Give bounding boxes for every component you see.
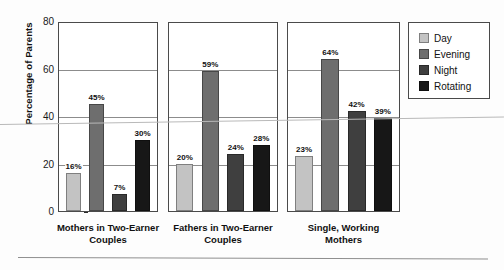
category-label: Single, WorkingMothers	[269, 222, 418, 246]
y-axis-tick-mark	[84, 212, 88, 213]
category-label-line1: Single, Working	[269, 222, 418, 234]
bar[interactable]: 16%	[66, 173, 82, 211]
bar-slot: 28%	[249, 23, 275, 211]
bar-chart: Percentage of Parents 806040200 16%45%7%…	[0, 0, 504, 270]
bar-value-label: 59%	[201, 60, 219, 70]
bar[interactable]: 45%	[89, 104, 105, 211]
bar-group: 16%45%7%30%	[59, 23, 157, 211]
y-axis-tick-label: 0	[32, 207, 54, 217]
bar-slot: 20%	[172, 23, 198, 211]
bar-value-label: 16%	[64, 162, 82, 172]
legend-label: Night	[434, 65, 457, 76]
bar[interactable]: 30%	[135, 140, 151, 211]
bar-value-label: 42%	[348, 100, 366, 110]
bar[interactable]: 28%	[253, 145, 270, 212]
legend-item[interactable]: Rotating	[419, 78, 489, 94]
y-axis-tick-label: 20	[32, 160, 54, 170]
bar-slot: 7%	[108, 23, 131, 211]
bar-slot: 30%	[131, 23, 154, 211]
bar-slot: 59%	[198, 23, 224, 211]
legend-item[interactable]: Evening	[419, 46, 489, 62]
legend-item[interactable]: Day	[419, 30, 489, 46]
category-label-line2: Mothers	[269, 234, 418, 246]
bar-value-label: 30%	[133, 129, 151, 139]
bar-group: 20%59%24%28%	[169, 23, 277, 211]
bar-slot: 39%	[370, 23, 396, 211]
bottom-rule	[18, 257, 488, 259]
legend-label: Day	[434, 33, 452, 44]
bar-value-label: 64%	[321, 48, 339, 58]
bar-slot: 45%	[85, 23, 108, 211]
chart-panel: 16%45%7%30%	[58, 22, 158, 212]
bar-slot: 24%	[223, 23, 249, 211]
legend-swatch-icon	[419, 65, 429, 75]
bar[interactable]: 23%	[295, 156, 313, 211]
legend-swatch-icon	[419, 33, 429, 43]
bar[interactable]: 20%	[176, 164, 193, 212]
bar-group: 23%64%42%39%	[288, 23, 399, 211]
bar-value-label: 7%	[113, 183, 127, 193]
bar-value-label: 20%	[176, 153, 194, 163]
bar-slot: 16%	[62, 23, 85, 211]
chart-panel: 20%59%24%28%	[168, 22, 278, 212]
bar[interactable]: 59%	[202, 71, 219, 211]
bar-value-label: 24%	[227, 143, 245, 153]
chart-panel: 23%64%42%39%	[287, 22, 400, 212]
bar-slot: 42%	[344, 23, 370, 211]
bar[interactable]: 24%	[227, 154, 244, 211]
legend-label: Evening	[434, 49, 470, 60]
legend-label: Rotating	[434, 81, 471, 92]
bar[interactable]: 64%	[321, 59, 339, 211]
y-axis-tick-label: 80	[32, 17, 54, 27]
y-axis-tick-label: 60	[32, 65, 54, 75]
legend-item[interactable]: Night	[419, 62, 489, 78]
bar-value-label: 45%	[87, 93, 105, 103]
bar-value-label: 28%	[252, 134, 270, 144]
bar-slot: 64%	[317, 23, 343, 211]
bar[interactable]: 39%	[374, 118, 392, 211]
legend-swatch-icon	[419, 81, 429, 91]
bar-value-label: 23%	[295, 145, 313, 155]
bar[interactable]: 42%	[348, 111, 366, 211]
legend: DayEveningNightRotating	[408, 22, 490, 99]
bar-value-label: 39%	[374, 107, 392, 117]
legend-swatch-icon	[419, 49, 429, 59]
bar[interactable]: 7%	[112, 194, 128, 211]
y-axis-tick-label: 40	[32, 112, 54, 122]
bar-slot: 23%	[291, 23, 317, 211]
